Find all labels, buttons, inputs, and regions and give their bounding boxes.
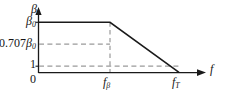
y-tick-label-beta0: β0 bbox=[26, 15, 36, 27]
x-axis-label: f bbox=[210, 63, 213, 75]
frequency-response-figure: β f β0 0.707β0 1 0 fβ fT bbox=[0, 0, 226, 103]
x-axis bbox=[39, 69, 207, 76]
y-tick-label-cutoff: 0.707β0 bbox=[0, 37, 36, 49]
origin-label: 0 bbox=[30, 73, 36, 85]
x-tick-label-f-t: fT bbox=[172, 76, 180, 88]
beta-response-curve bbox=[39, 22, 180, 72]
x-tick-label-f-beta: fβ bbox=[103, 76, 110, 88]
y-axis bbox=[35, 7, 41, 73]
y-tick-label-unity: 1 bbox=[30, 58, 36, 70]
